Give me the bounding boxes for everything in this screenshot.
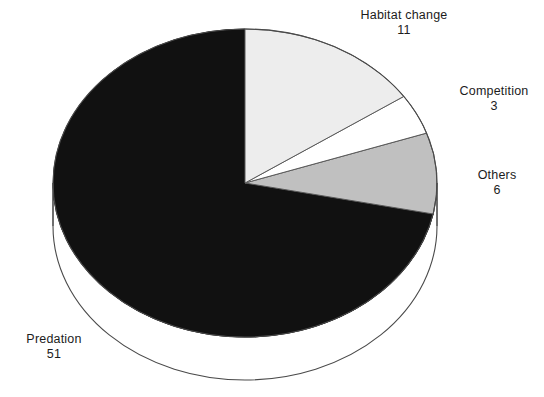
pie-label-others: Others 6 xyxy=(452,168,542,198)
pie-chart-figure: Habitat change 11 Competition 3 Others 6… xyxy=(0,0,544,397)
pie-slices xyxy=(53,29,437,337)
pie-label-predation-value: 51 xyxy=(2,347,106,362)
pie-label-habitat-change-value: 11 xyxy=(338,23,470,38)
pie-label-predation: Predation 51 xyxy=(2,332,106,362)
pie-label-competition: Competition 3 xyxy=(446,84,542,114)
pie-label-others-category: Others xyxy=(452,168,542,183)
pie-label-habitat-change-category: Habitat change xyxy=(338,8,470,23)
pie-label-others-value: 6 xyxy=(452,183,542,198)
pie-label-habitat-change: Habitat change 11 xyxy=(338,8,470,38)
pie-label-predation-category: Predation xyxy=(2,332,106,347)
clipped-caption-fragment xyxy=(0,388,544,397)
pie-label-competition-category: Competition xyxy=(446,84,542,99)
pie-label-competition-value: 3 xyxy=(446,99,542,114)
